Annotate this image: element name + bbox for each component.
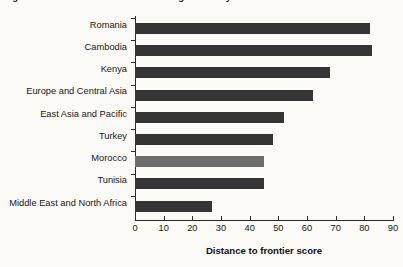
x-tick-label: 0: [123, 223, 147, 233]
category-label-romania: Romania: [0, 20, 131, 31]
x-axis-title: Distance to frontier score: [135, 245, 393, 256]
x-tick-label: 40: [238, 223, 262, 233]
x-tick-mark: [336, 216, 337, 221]
bar-turkey[interactable]: [135, 134, 273, 145]
bar-row-romania: [135, 18, 393, 40]
category-label-east-asia-and-pacific: East Asia and Pacific: [0, 109, 131, 120]
x-tick-mark: [307, 216, 308, 221]
x-tick-label: 30: [209, 223, 233, 233]
x-tick-mark: [164, 216, 165, 221]
x-tick-label: 10: [152, 223, 176, 233]
x-axis-line: [135, 220, 393, 221]
x-tick-label: 60: [295, 223, 319, 233]
bar-row-middle-east-and-north-africa: [135, 196, 393, 218]
bar-morocco[interactable]: [135, 156, 264, 167]
x-tick-mark: [364, 216, 365, 221]
x-tick-mark: [221, 216, 222, 221]
x-tick-mark: [250, 216, 251, 221]
bar-europe-and-central-asia[interactable]: [135, 90, 313, 101]
category-label-tunisia: Tunisia: [0, 175, 131, 186]
bar-row-morocco: [135, 151, 393, 173]
bar-tunisia[interactable]: [135, 178, 264, 189]
bar-row-kenya: [135, 62, 393, 84]
bar-east-asia-and-pacific[interactable]: [135, 112, 284, 123]
category-label-group: Romania Cambodia Kenya Europe and Centra…: [0, 18, 131, 218]
x-tick-mark: [393, 216, 394, 221]
x-tick-mark: [135, 216, 136, 221]
bar-middle-east-and-north-africa[interactable]: [135, 201, 212, 212]
x-tick-label: 50: [266, 223, 290, 233]
category-label-morocco: Morocco: [0, 153, 131, 164]
x-tick-label: 90: [381, 223, 403, 233]
bar-row-east-asia-and-pacific: [135, 107, 393, 129]
bar-row-cambodia: [135, 40, 393, 62]
bar-row-tunisia: [135, 173, 393, 195]
bar-romania[interactable]: [135, 23, 370, 34]
bar-row-turkey: [135, 129, 393, 151]
bar-row-europe-and-central-asia: [135, 85, 393, 107]
category-label-kenya: Kenya: [0, 64, 131, 75]
x-tick-label: 70: [324, 223, 348, 233]
x-tick-mark: [192, 216, 193, 221]
category-label-europe-and-central-asia: Europe and Central Asia: [0, 86, 131, 97]
category-label-cambodia: Cambodia: [0, 42, 131, 53]
category-label-middle-east-and-north-africa: Middle East and North Africa: [0, 198, 131, 209]
x-tick-mark: [278, 216, 279, 221]
x-tick-label: 20: [180, 223, 204, 233]
x-tick-label: 80: [352, 223, 376, 233]
plot-area: [135, 18, 393, 218]
bar-cambodia[interactable]: [135, 45, 372, 56]
category-label-turkey: Turkey: [0, 131, 131, 142]
bar-kenya[interactable]: [135, 67, 330, 78]
